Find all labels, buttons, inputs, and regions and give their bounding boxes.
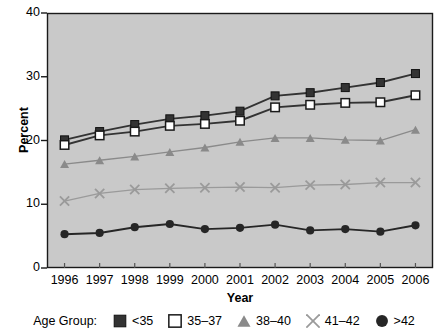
legend-item-label: 41–42 bbox=[325, 314, 360, 328]
marker-filled-square bbox=[201, 112, 209, 120]
marker-open-square bbox=[341, 99, 350, 108]
legend-item-label: 35–37 bbox=[187, 314, 222, 328]
legend-item-4: 41–42 bbox=[306, 314, 360, 328]
marker-open-square bbox=[95, 131, 104, 140]
filled-square-icon bbox=[113, 314, 127, 328]
marker-filled-square bbox=[271, 92, 279, 100]
marker-x-cross bbox=[306, 314, 319, 327]
marker-filled-square bbox=[236, 107, 244, 115]
y-axis-title: Percent bbox=[17, 95, 31, 165]
y-axis-tick-label: 20 bbox=[6, 133, 40, 147]
legend-items: <3535–3738–4041–42>42 bbox=[113, 314, 415, 328]
marker-filled-circle bbox=[376, 315, 388, 327]
x-axis-tick-label: 2003 bbox=[290, 273, 330, 287]
y-axis-tick-label: 40 bbox=[6, 5, 40, 19]
y-axis-tick-label: 0 bbox=[6, 260, 40, 274]
open-square-icon bbox=[168, 314, 182, 328]
legend-title: Age Group: bbox=[33, 314, 97, 328]
legend-item-5: >42 bbox=[375, 314, 415, 328]
marker-filled-square bbox=[341, 84, 349, 92]
marker-open-square bbox=[130, 127, 139, 136]
marker-filled-circle bbox=[201, 225, 209, 233]
marker-filled-circle bbox=[341, 225, 349, 233]
marker-filled-square bbox=[114, 315, 126, 327]
marker-open-square bbox=[271, 103, 280, 112]
legend-item-label: <35 bbox=[132, 314, 153, 328]
chart-figure: Percent 403020100 1996199719981999200020… bbox=[0, 0, 448, 336]
x-axis-tick-label: 2002 bbox=[255, 273, 295, 287]
legend-item-2: 35–37 bbox=[168, 314, 222, 328]
chart-legend: Age Group: <3535–3738–4041–42>42 bbox=[0, 309, 448, 333]
legend-item-3: 38–40 bbox=[237, 314, 291, 328]
x-axis-tick-label: 1999 bbox=[150, 273, 190, 287]
marker-open-square bbox=[169, 315, 181, 327]
x-axis-tick-label: 1998 bbox=[115, 273, 155, 287]
marker-open-square bbox=[201, 120, 210, 129]
legend-item-label: 38–40 bbox=[256, 314, 291, 328]
x-axis-tick-label: 2006 bbox=[395, 273, 435, 287]
x-axis-tick-label: 2001 bbox=[220, 273, 260, 287]
marker-filled-square bbox=[411, 70, 419, 78]
marker-filled-circle bbox=[376, 228, 384, 236]
y-axis-tick-label: 10 bbox=[6, 196, 40, 210]
filled-triangle-icon bbox=[237, 314, 251, 328]
marker-filled-circle bbox=[411, 221, 419, 229]
filled-circle-icon bbox=[375, 314, 389, 328]
legend-item-label: >42 bbox=[394, 314, 415, 328]
x-axis-tick-label: 1997 bbox=[80, 273, 120, 287]
marker-filled-square bbox=[306, 89, 314, 97]
marker-filled-circle bbox=[271, 221, 279, 229]
legend-item-1: <35 bbox=[113, 314, 153, 328]
marker-filled-circle bbox=[96, 229, 104, 237]
x-axis-tick-label: 2000 bbox=[185, 273, 225, 287]
marker-filled-square bbox=[376, 78, 384, 86]
marker-filled-circle bbox=[236, 224, 244, 232]
marker-filled-circle bbox=[60, 230, 68, 238]
marker-open-square bbox=[60, 141, 69, 150]
y-axis-tick-label: 30 bbox=[6, 69, 40, 83]
x-axis-tick-label: 2005 bbox=[360, 273, 400, 287]
marker-open-square bbox=[236, 116, 245, 125]
marker-open-square bbox=[411, 91, 420, 100]
x-cross-icon bbox=[306, 314, 320, 328]
marker-filled-circle bbox=[131, 223, 139, 231]
marker-open-square bbox=[166, 122, 175, 130]
marker-open-square bbox=[306, 101, 315, 110]
x-axis-tick-label: 1996 bbox=[45, 273, 85, 287]
x-axis-title: Year bbox=[47, 291, 433, 305]
marker-filled-circle bbox=[306, 226, 314, 234]
marker-filled-circle bbox=[166, 220, 174, 228]
x-axis-tick-label: 2004 bbox=[325, 273, 365, 287]
marker-open-square bbox=[376, 98, 385, 107]
marker-filled-triangle bbox=[238, 315, 251, 327]
